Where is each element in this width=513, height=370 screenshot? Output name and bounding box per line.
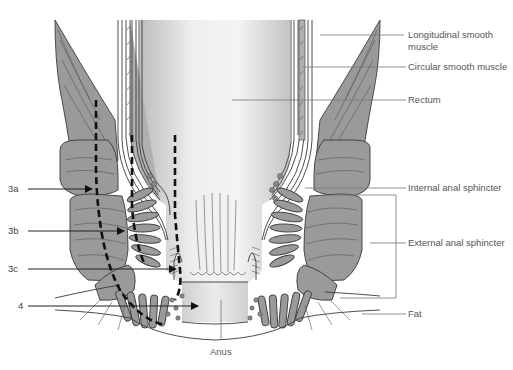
label-4: 4 bbox=[18, 300, 23, 311]
label-circular-smooth-muscle: Circular smooth muscle bbox=[408, 61, 507, 72]
label-fat: Fat bbox=[408, 308, 422, 319]
label-external-anal-sphincter: External anal sphincter bbox=[408, 237, 505, 248]
label-longitudinal-smooth-muscle-line2: muscle bbox=[408, 41, 438, 52]
label-longitudinal-smooth-muscle: Longitudinal smooth bbox=[408, 29, 493, 40]
label-3b: 3b bbox=[8, 225, 19, 236]
label-3c: 3c bbox=[8, 263, 18, 274]
label-3a: 3a bbox=[8, 183, 19, 194]
external-sphincter-left bbox=[60, 140, 135, 300]
label-rectum: Rectum bbox=[408, 94, 441, 105]
label-anus: Anus bbox=[210, 346, 232, 357]
rectum-lumen bbox=[140, 20, 290, 324]
anorectal-diagram: Longitudinal smooth muscle Circular smoo… bbox=[0, 0, 513, 370]
label-internal-anal-sphincter: Internal anal sphincter bbox=[408, 182, 501, 193]
